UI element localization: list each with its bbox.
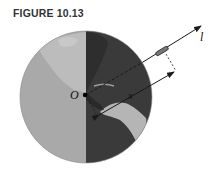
globe [18, 28, 154, 168]
satellite-icon [155, 46, 169, 57]
origin-point [83, 93, 87, 97]
distance-label: x [127, 89, 133, 101]
origin-label: O [70, 88, 79, 102]
line-l-arrow [143, 26, 201, 62]
line-label: l [200, 30, 204, 44]
projection-dashed-line [166, 54, 176, 71]
globe-diagram: O x l [0, 0, 215, 173]
